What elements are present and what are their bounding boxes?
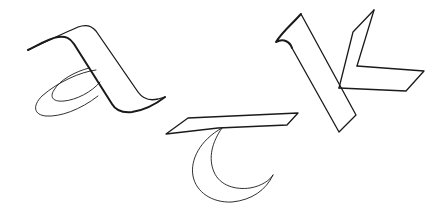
letter-t-drawing: [166, 113, 298, 202]
sketch-canvas: a t k: [0, 0, 436, 214]
letter-a-drawing: [28, 26, 165, 117]
